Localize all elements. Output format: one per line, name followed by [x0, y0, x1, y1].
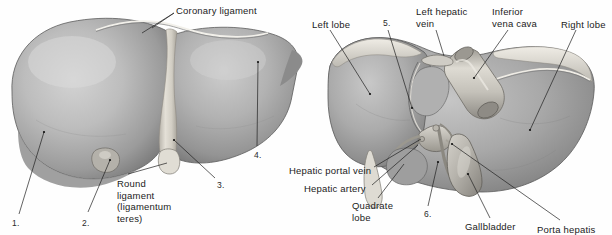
label-inferior-vena-cava: Inferior vena cava — [492, 6, 537, 29]
label-callout-1: 1. — [12, 218, 19, 230]
dot-3 — [173, 139, 175, 141]
anterior-gallbladder-highlight — [99, 151, 111, 159]
label-quadrate-lobe: Quadrate lobe — [352, 200, 393, 223]
porta-vessel-node-b — [419, 136, 424, 141]
label-porta-hepatis: Porta hepatis — [537, 224, 595, 235]
liver-posteroinferior-view — [328, 30, 594, 220]
leader-left-hepatic-vein — [436, 30, 444, 56]
dot-1 — [43, 131, 45, 133]
label-hepatic-portal-vein: Hepatic portal vein — [289, 165, 371, 177]
anterior-right-lobe-highlight — [28, 36, 116, 88]
dot-4 — [257, 61, 259, 63]
dot-5 — [411, 107, 413, 109]
anterior-left-lobe-highlight — [190, 40, 266, 80]
label-callout-2: 2. — [82, 218, 89, 230]
label-gallbladder: Gallbladder — [465, 221, 516, 233]
label-callout-4: 4. — [254, 150, 261, 162]
dot-left-lobe — [369, 93, 371, 95]
label-callout-3: 3. — [217, 180, 224, 192]
dot-gallbladder — [467, 173, 469, 175]
label-right-lobe: Right lobe — [561, 19, 606, 31]
dot-porta-hepatis — [451, 143, 453, 145]
porta-vessel-node-a — [433, 125, 439, 131]
anatomy-illustration — [0, 0, 612, 235]
label-left-lobe: Left lobe — [312, 19, 350, 31]
label-round-ligament: Round ligament (ligamentum teres) — [117, 178, 171, 224]
label-hepatic-artery: Hepatic artery — [304, 183, 366, 195]
dot-ivc — [473, 77, 475, 79]
dot-right-lobe — [529, 129, 531, 131]
liver-anatomy-figure: Coronary ligament Round ligament (ligame… — [0, 0, 612, 235]
round-ligament-teres — [158, 149, 179, 174]
label-left-hepatic-vein: Left hepatic vein — [416, 6, 467, 29]
label-callout-5: 5. — [383, 18, 390, 30]
label-callout-6: 6. — [424, 209, 431, 221]
dot-2 — [109, 159, 111, 161]
dot-6 — [437, 161, 439, 163]
label-coronary-ligament: Coronary ligament — [176, 5, 257, 17]
